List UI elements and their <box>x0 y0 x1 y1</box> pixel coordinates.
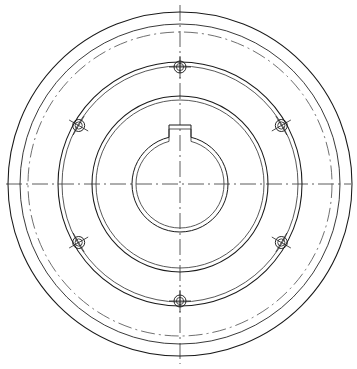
part-front-view-drawing <box>0 0 357 369</box>
bolt-hole-bottom <box>169 290 191 312</box>
bolt-hole-upper-right <box>272 116 291 135</box>
bolt-hole-top <box>169 56 191 78</box>
bolt-hole-lower-left <box>69 233 88 252</box>
bolt-hole-lower-right <box>272 233 291 252</box>
technical-drawing-canvas <box>0 0 357 369</box>
bolt-hole-upper-left <box>69 116 88 135</box>
